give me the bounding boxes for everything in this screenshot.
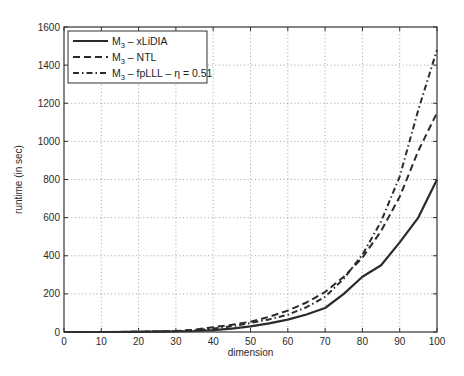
y-tick-label: 1000 [38, 136, 61, 147]
x-tick-label: 20 [133, 336, 145, 347]
x-tick-label: 30 [170, 336, 182, 347]
x-tick-label: 90 [394, 336, 406, 347]
x-axis-label: dimension [228, 347, 274, 358]
legend: M3 – xLiDIAM3 – NTLM3 – fpLLL – η = 0.51 [68, 31, 213, 83]
y-tick-label: 800 [43, 174, 60, 185]
y-tick-label: 1200 [38, 98, 61, 109]
x-tick-label: 70 [320, 336, 332, 347]
y-tick-label: 1400 [38, 60, 61, 71]
y-tick-label: 200 [43, 288, 60, 299]
runtime-chart: 0102030405060708090100 02004006008001000… [0, 0, 464, 376]
legend-rest: – fpLLL – η = 0.51 [125, 67, 213, 79]
x-tick-label: 0 [61, 336, 67, 347]
y-tick-label: 1600 [38, 22, 61, 33]
x-tick-label: 10 [96, 336, 108, 347]
x-tick-label: 50 [245, 336, 257, 347]
y-tick-label: 400 [43, 250, 60, 261]
legend-main: M [112, 67, 121, 79]
x-tick-label: 80 [357, 336, 369, 347]
x-tick-label: 60 [282, 336, 294, 347]
y-tick-label: 600 [43, 212, 60, 223]
legend-main: M [112, 51, 121, 63]
x-tick-label: 100 [429, 336, 446, 347]
legend-rest: – NTL [125, 51, 157, 63]
legend-main: M [112, 35, 121, 47]
y-tick-label: 0 [54, 327, 60, 338]
legend-rest: – xLiDIA [125, 35, 168, 47]
y-axis-label: runtime (in sec) [13, 145, 24, 214]
x-tick-label: 40 [208, 336, 220, 347]
